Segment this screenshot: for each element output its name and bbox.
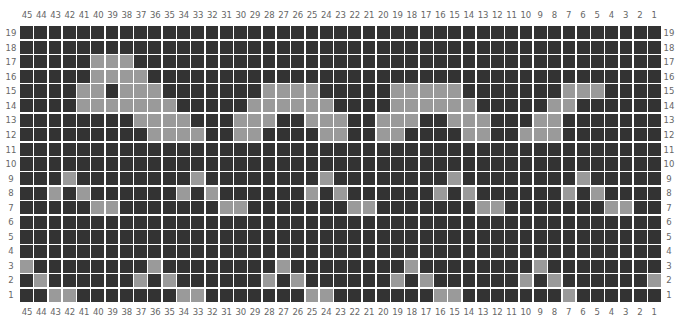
grid-cell — [306, 187, 319, 200]
row-label: 8 — [2, 186, 20, 201]
grid-cell — [263, 274, 276, 287]
grid-cell — [263, 128, 276, 141]
grid-cell — [291, 230, 304, 243]
grid-cell — [320, 41, 333, 54]
grid-cell — [434, 70, 447, 83]
column-label: 2 — [633, 305, 647, 319]
grid-cell — [134, 289, 147, 302]
grid-cell — [49, 84, 62, 97]
row-label: 13 — [660, 113, 676, 128]
grid-cell — [277, 55, 290, 68]
grid-cell — [405, 99, 418, 112]
row-label: 17 — [660, 55, 676, 70]
grid-cell — [420, 172, 433, 185]
grid-cell — [277, 128, 290, 141]
grid-cell — [277, 201, 290, 214]
grid-cell — [63, 216, 76, 229]
grid-cell — [106, 187, 119, 200]
grid-cell — [420, 70, 433, 83]
grid-cell — [620, 84, 633, 97]
grid-cell — [148, 245, 161, 258]
grid-cell — [634, 230, 647, 243]
row-label: 8 — [660, 186, 676, 201]
grid-cell — [320, 143, 333, 156]
grid-cell — [620, 172, 633, 185]
grid-cell — [277, 26, 290, 39]
grid-cell — [548, 143, 561, 156]
grid-cell — [134, 114, 147, 127]
grid-cell — [34, 70, 47, 83]
grid-cell — [463, 245, 476, 258]
grid-cell — [363, 26, 376, 39]
grid-cell — [548, 201, 561, 214]
grid-cell — [434, 157, 447, 170]
grid-cell — [391, 99, 404, 112]
column-label: 23 — [334, 8, 348, 22]
grid-cell — [20, 114, 33, 127]
grid-cell — [634, 157, 647, 170]
grid-cell — [377, 114, 390, 127]
grid-cell — [77, 260, 90, 273]
grid-cell — [234, 143, 247, 156]
grid-cell — [220, 41, 233, 54]
grid-cell — [234, 216, 247, 229]
grid-cell — [605, 230, 618, 243]
grid-cell — [605, 84, 618, 97]
grid-cell — [477, 201, 490, 214]
grid-cell — [434, 26, 447, 39]
grid-cell — [63, 245, 76, 258]
column-label: 7 — [562, 8, 576, 22]
grid-cell — [49, 216, 62, 229]
grid-cell — [291, 99, 304, 112]
column-label: 2 — [633, 8, 647, 22]
grid-cell — [191, 84, 204, 97]
grid-cell — [20, 55, 33, 68]
grid-cell — [491, 289, 504, 302]
grid-cell — [220, 187, 233, 200]
grid-cell — [106, 143, 119, 156]
grid-cell — [106, 55, 119, 68]
grid-cell — [163, 55, 176, 68]
grid-cell — [163, 84, 176, 97]
grid-cell — [434, 128, 447, 141]
grid-cell — [591, 289, 604, 302]
row-label: 6 — [660, 215, 676, 230]
grid-cell — [563, 70, 576, 83]
column-label: 26 — [291, 305, 305, 319]
grid-cell — [177, 289, 190, 302]
grid-cell — [277, 157, 290, 170]
grid-cell — [405, 172, 418, 185]
grid-cell — [520, 230, 533, 243]
grid-cell — [363, 245, 376, 258]
grid-cell — [248, 143, 261, 156]
grid-cell — [148, 201, 161, 214]
grid-cell — [577, 157, 590, 170]
grid-cell — [291, 157, 304, 170]
grid-cell — [391, 114, 404, 127]
grid-cell — [20, 260, 33, 273]
grid-cell — [605, 201, 618, 214]
grid-cell — [206, 216, 219, 229]
grid-cell — [106, 274, 119, 287]
grid-cell — [34, 84, 47, 97]
grid-cell — [134, 216, 147, 229]
row-label: 17 — [2, 55, 20, 70]
grid-cell — [548, 172, 561, 185]
grid-cell — [248, 230, 261, 243]
grid-cell — [163, 172, 176, 185]
grid-cell — [206, 55, 219, 68]
grid-cell — [63, 172, 76, 185]
grid-cell — [234, 230, 247, 243]
column-label: 21 — [362, 8, 376, 22]
grid-cell — [620, 157, 633, 170]
grid-cell — [220, 274, 233, 287]
grid-cell — [377, 260, 390, 273]
grid-cell — [220, 216, 233, 229]
grid-cell — [448, 201, 461, 214]
grid-cell — [49, 172, 62, 185]
grid-cell — [563, 289, 576, 302]
grid-cell — [120, 216, 133, 229]
grid-cell — [620, 245, 633, 258]
grid-cell — [148, 26, 161, 39]
grid-cell — [291, 128, 304, 141]
